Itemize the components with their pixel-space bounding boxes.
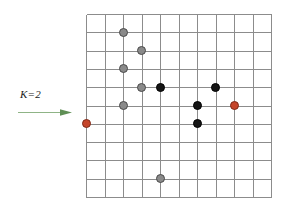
red-node <box>82 119 91 128</box>
red-node <box>230 101 239 110</box>
gray-node <box>119 101 128 110</box>
k-annotation: K=2 <box>14 88 76 122</box>
gray-node <box>119 28 128 37</box>
black-node <box>193 101 202 110</box>
black-node <box>156 83 165 92</box>
gray-node <box>119 64 128 73</box>
lattice-grid <box>86 14 271 197</box>
gray-node <box>156 174 165 183</box>
gray-node <box>137 83 146 92</box>
black-node <box>211 83 220 92</box>
grid-lines <box>86 14 272 198</box>
k-value-label: K=2 <box>20 88 41 101</box>
black-node <box>193 119 202 128</box>
rightward-arrow-icon <box>16 107 76 118</box>
figure-canvas: K=2 <box>0 0 290 209</box>
